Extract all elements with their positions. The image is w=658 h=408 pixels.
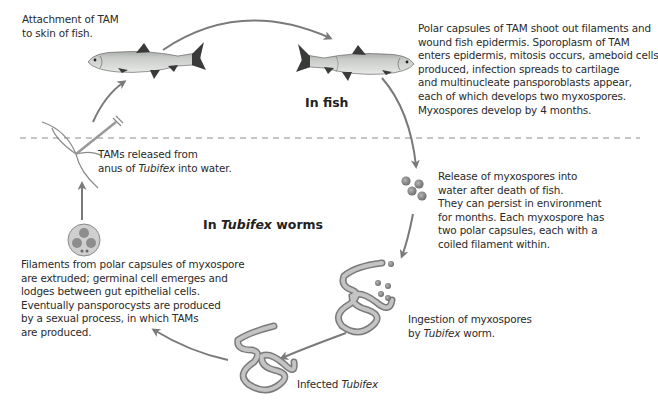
myxospore-cluster-illustration — [401, 176, 426, 200]
arrow-tam-to-attachment — [93, 82, 124, 122]
step-tams-released-text: TAMs released from anus of Tubifex into … — [98, 148, 232, 175]
step-ingestion-text: Ingestion of myxospores by Tubifex worm. — [408, 313, 532, 340]
tubifex-worm-infected — [238, 326, 295, 390]
step-infected-text: Infected Tubifex — [297, 378, 378, 392]
region-label-worms: In Tubifex worms — [203, 217, 323, 232]
myxospore-illustration — [68, 224, 100, 256]
step-attachment-text: Attachment of TAM to skin of fish. — [22, 13, 119, 40]
step-infection-text: Polar capsules of TAM shoot out filament… — [418, 22, 658, 117]
step-release-text: Release of myxospores into water after d… — [438, 170, 604, 252]
step-development-text: Filaments from polar capsules of myxospo… — [21, 258, 244, 340]
arrow-ingestion-to-infected — [282, 333, 346, 358]
tubifex-worm-ingestion — [338, 263, 392, 332]
arrow-release-to-ingestion — [402, 214, 413, 256]
region-label-fish: In fish — [305, 95, 349, 110]
arrow-fish-to-release — [382, 78, 416, 166]
fish-illustration-infected — [296, 44, 414, 81]
arrow-attachment-to-infection — [163, 21, 330, 50]
fish-illustration-attachment — [88, 42, 206, 79]
